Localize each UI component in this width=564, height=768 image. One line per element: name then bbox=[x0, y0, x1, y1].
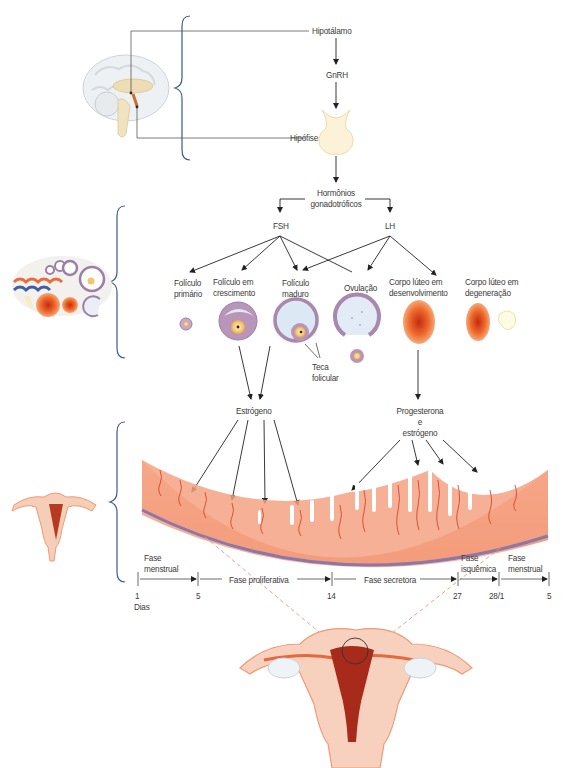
label-theca: Teca folicular bbox=[312, 361, 339, 383]
tick-day-1: 1 bbox=[135, 590, 139, 601]
uterus-small-illustration bbox=[12, 493, 96, 561]
theca-line1: Teca bbox=[312, 361, 339, 372]
phase-menstrual-1: Fase menstrual bbox=[144, 552, 178, 574]
prog-line2: e bbox=[394, 416, 446, 427]
phase-line2: menstrual bbox=[144, 563, 178, 574]
label-estrogen: Estrógeno bbox=[236, 405, 272, 416]
timeline-unit: Dias bbox=[134, 601, 150, 612]
diagram-graphics bbox=[0, 0, 564, 768]
follicle-growing bbox=[219, 302, 257, 340]
label-pituitary: Hipófise bbox=[290, 132, 318, 143]
stage-line1: Corpo lúteo em bbox=[465, 276, 518, 287]
phase-line2: isquêmica bbox=[461, 563, 496, 574]
label-gnrh: GnRH bbox=[326, 69, 348, 80]
prog-line1: Progesterona bbox=[394, 405, 446, 416]
phase-line1: Fase bbox=[144, 552, 178, 563]
label-fsh: FSH bbox=[273, 220, 289, 231]
tick-day-28-1: 28/1 bbox=[489, 590, 504, 601]
timeline-axis bbox=[138, 572, 549, 586]
stage-line1: Folículo em bbox=[213, 276, 255, 287]
stage-line1: Folículo bbox=[174, 277, 202, 288]
stage-line2: degeneração bbox=[465, 287, 518, 298]
label-stage-growing-follicle: Folículo em crescimento bbox=[213, 276, 255, 298]
stage-line1: Corpo lúteo em bbox=[389, 276, 448, 287]
label-stage-primary-follicle: Folículo primário bbox=[174, 277, 202, 299]
label-stage-corpus-luteum-degenerating: Corpo lúteo em degeneração bbox=[465, 276, 518, 298]
phase-ischemic: Fase isquêmica bbox=[461, 552, 496, 574]
stage-line2: desenvolvimento bbox=[389, 287, 448, 298]
uterus-large-illustration bbox=[240, 629, 472, 768]
phase-menstrual-2: Fase menstrual bbox=[508, 552, 542, 574]
brain-illustration bbox=[83, 55, 169, 137]
label-stage-mature-follicle: Folículo maduro bbox=[282, 277, 309, 299]
label-gonadotropins-line1: Hormônios bbox=[305, 187, 367, 198]
label-gonadotropins: Hormônios gonadotróficos bbox=[305, 187, 367, 209]
corpus-luteum-developing bbox=[403, 300, 435, 344]
pituitary-illustration bbox=[319, 110, 353, 154]
tick-day-5: 5 bbox=[196, 590, 200, 601]
phase-line2: menstrual bbox=[508, 563, 542, 574]
label-hypothalamus: Hipotálamo bbox=[312, 25, 352, 36]
prog-line3: estrógeno bbox=[394, 427, 446, 438]
label-lh: LH bbox=[385, 220, 395, 231]
tick-day-14: 14 bbox=[327, 590, 336, 601]
stage-line1: Folículo bbox=[282, 277, 309, 288]
phase-line1: Fase bbox=[461, 552, 496, 563]
tick-day-27: 27 bbox=[453, 590, 462, 601]
theca-line2: folicular bbox=[312, 372, 339, 383]
label-progesterone-estrogen: Progesterona e estrógeno bbox=[394, 405, 446, 438]
phase-proliferative: Fase proliferativa bbox=[229, 574, 289, 585]
stage-line2: primário bbox=[174, 288, 202, 299]
stage-line2: crescimento bbox=[213, 287, 255, 298]
follicle-primary bbox=[180, 318, 192, 330]
follicle-mature bbox=[272, 296, 320, 358]
phase-line1: Fase bbox=[508, 552, 542, 563]
stage-line1: Ovulação bbox=[344, 282, 377, 293]
ovulation-follicle bbox=[335, 295, 379, 363]
label-gonadotropins-line2: gonadotróficos bbox=[305, 198, 367, 209]
corpus-albicans bbox=[498, 311, 515, 330]
ovary-illustration bbox=[12, 256, 112, 317]
corpus-luteum-degenerating bbox=[466, 303, 490, 341]
stage-line2: maduro bbox=[282, 288, 309, 299]
label-stage-ovulation: Ovulação bbox=[344, 282, 377, 293]
label-stage-corpus-luteum-developing: Corpo lúteo em desenvolvimento bbox=[389, 276, 448, 298]
tick-day-5-end: 5 bbox=[547, 590, 551, 601]
phase-secretory: Fase secretora bbox=[364, 574, 416, 585]
